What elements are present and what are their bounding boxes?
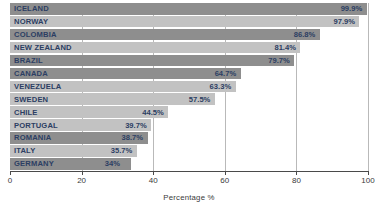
bar-fill xyxy=(10,29,321,41)
horizontal-bar-chart: ICELAND99.9%NORWAY97.9%COLOMBIA86.8%NEW … xyxy=(0,0,384,217)
bar-fill xyxy=(10,106,169,118)
bar-fill xyxy=(10,93,216,105)
bar-fill xyxy=(10,16,360,28)
x-tick-mark xyxy=(225,171,226,175)
bar-row[interactable]: NORWAY97.9% xyxy=(10,16,368,29)
bar-row[interactable]: VENEZUELA63.3% xyxy=(10,81,368,94)
x-tick-label: 40 xyxy=(149,176,158,185)
bar-row[interactable]: ITALY35.7% xyxy=(10,145,368,158)
bar-fill xyxy=(10,119,152,131)
bar-row[interactable]: GERMANY34% xyxy=(10,158,368,171)
x-tick-label: 0 xyxy=(8,176,12,185)
bar-row[interactable]: PORTUGAL39.7% xyxy=(10,119,368,132)
bar-fill xyxy=(10,55,295,67)
bar-fill xyxy=(10,81,237,93)
x-axis-line xyxy=(10,171,368,172)
x-tick-label: 20 xyxy=(77,176,86,185)
x-tick-mark xyxy=(82,171,83,175)
x-axis-title: Percentage % xyxy=(10,193,368,202)
bar-fill xyxy=(10,132,149,144)
bar-row[interactable]: BRAZIL79.7% xyxy=(10,55,368,68)
x-tick-label: 60 xyxy=(220,176,229,185)
bar-row[interactable]: CANADA64.7% xyxy=(10,68,368,81)
bar-row[interactable]: NEW ZEALAND81.4% xyxy=(10,42,368,55)
bar-fill xyxy=(10,3,368,15)
x-tick-label: 80 xyxy=(292,176,301,185)
gridline xyxy=(368,3,369,171)
bar-fill xyxy=(10,68,242,80)
x-tick-mark xyxy=(296,171,297,175)
x-tick-mark xyxy=(10,171,11,175)
bar-fill xyxy=(10,145,138,157)
bar-row[interactable]: SWEDEN57.5% xyxy=(10,93,368,106)
bar-fill xyxy=(10,158,132,170)
bar-row[interactable]: ICELAND99.9% xyxy=(10,3,368,16)
x-axis: 020406080100 Percentage % xyxy=(10,171,368,217)
bar-list: ICELAND99.9%NORWAY97.9%COLOMBIA86.8%NEW … xyxy=(10,3,368,171)
bar-row[interactable]: ROMANIA38.7% xyxy=(10,132,368,145)
bar-fill xyxy=(10,42,301,54)
x-tick-mark xyxy=(368,171,369,175)
bar-row[interactable]: COLOMBIA86.8% xyxy=(10,29,368,42)
x-tick-mark xyxy=(153,171,154,175)
x-tick-label: 100 xyxy=(361,176,374,185)
bar-row[interactable]: CHILE44.5% xyxy=(10,106,368,119)
plot-area: ICELAND99.9%NORWAY97.9%COLOMBIA86.8%NEW … xyxy=(10,3,368,171)
